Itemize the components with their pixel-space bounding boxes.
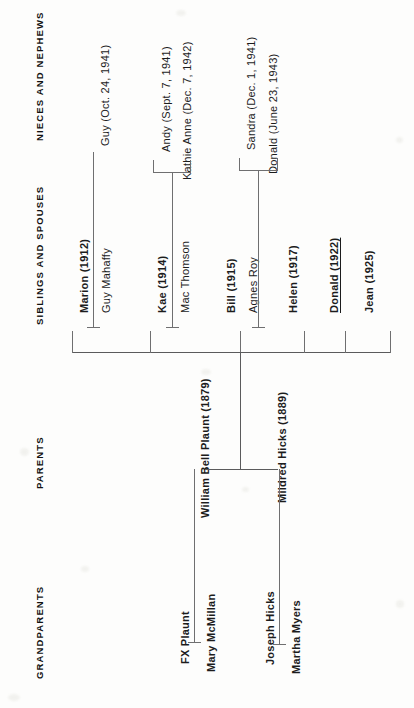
person-label-nephew-donald: Donald (June 23, 1943) [268,54,279,174]
person-label-mac-thomson: Mac Thomson [180,241,191,313]
person-label-nephew-andy: Andy (Sept. 7, 1941) [161,46,172,152]
person-label-niece-sandra: Sandra (Dec. 1, 1941) [246,37,257,150]
child-line-guy [93,152,94,158]
child-line-kathie-anne [190,160,191,173]
children-bracket-bill [239,170,278,171]
person-label-jean: Jean (1925) [364,250,375,313]
person-label-niece-kathie-anne: Kathie Anne (Dec. 7, 1942) [182,41,193,180]
lineage-line-mildred-to-grandparents [279,469,280,644]
sibling-stub-helen [304,331,305,353]
marriage-tick-fx-plaunt [188,642,201,643]
marriage-tick-bill [252,327,265,328]
marriage-line-kae-mac [172,172,173,327]
sibling-stub-donald [345,331,346,353]
marriage-tick-kae [166,327,179,328]
paper-blemish [8,694,20,701]
person-label-guy-mahaffy: Guy Mahaffy [101,248,112,313]
sibling-stub-bill [240,331,241,353]
person-label-mary-mcmillan: Mary McMillan [206,594,217,672]
person-label-fx-plaunt: FX Plaunt [180,611,191,664]
marriage-line-bill-agnes [258,170,259,327]
column-header-nieces: NIECES AND NEPHEWS [35,11,45,141]
sibling-stub-jean [390,331,391,353]
column-header-grandparents: GRANDPARENTS [35,586,45,679]
children-bracket-kae [153,172,191,173]
person-label-william-bell-plaunt: William Bell Plaunt (1879) [200,378,211,518]
person-label-martha-myers: Martha Myers [291,600,302,674]
paper-blemish [81,566,89,572]
person-label-kae: Kae (1914) [157,255,168,313]
column-header-parents: PARENTS [35,436,45,489]
sibling-spine [72,352,390,353]
child-line-sandra [239,158,240,171]
person-label-donald-subject: Donald (1922) [329,238,340,313]
marriage-tick-marion [87,327,100,328]
child-line-andy [153,160,154,173]
paper-blemish [242,487,249,492]
lineage-line-william-to-grandparents [194,469,195,642]
paper-blemish [396,137,403,143]
marriage-tick-joseph-hicks [273,644,286,645]
marriage-line-marion-guy [93,155,94,327]
family-tree-chart: NIECES AND NEPHEWS SIBLINGS AND SPOUSES … [0,0,414,708]
person-label-bill: Bill (1915) [226,258,237,313]
person-label-joseph-hicks: Joseph Hicks [265,591,276,665]
marriage-bar-parents [205,469,278,470]
paper-blemish [201,369,211,375]
child-line-donald-nephew [277,158,278,171]
paper-blemish [20,448,29,456]
column-header-siblings: SIBLINGS AND SPOUSES [35,186,45,325]
paper-blemish [176,10,186,16]
paper-blemish [396,600,404,608]
person-label-niece-guy: Guy (Oct. 24, 1941) [100,45,111,146]
person-label-marion: Marion (1912) [79,239,90,313]
person-label-helen: Helen (1917) [288,245,299,313]
descent-line-parents-to-siblings [240,352,241,470]
sibling-stub-kae [150,331,151,353]
sibling-stub-marion [72,331,73,353]
